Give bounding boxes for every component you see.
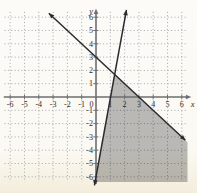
y-axis-arrow-icon	[94, 9, 99, 14]
x-tick-label: 3	[137, 100, 141, 109]
x-tick-label: -6	[7, 100, 14, 109]
axis-arrows	[94, 9, 192, 100]
x-axis-label: x	[190, 99, 195, 109]
y-tick-label: -3	[86, 133, 93, 142]
x-tick-label: 2	[123, 100, 127, 109]
y-tick-label: -2	[86, 119, 93, 128]
y-tick-label: -4	[86, 146, 93, 155]
x-tick-label: -1	[78, 100, 85, 109]
y-tick-label: 4	[89, 40, 93, 49]
inequality-graph: -6-5-4-3-2-10123456654321-1-2-3-4-5-6xy	[0, 0, 197, 193]
y-tick-label: -1	[86, 106, 93, 115]
x-tick-label: 6	[180, 100, 184, 109]
y-tick-label: 5	[89, 26, 93, 35]
shaded-region	[95, 74, 187, 182]
graph-svg: -6-5-4-3-2-10123456654321-1-2-3-4-5-6xy	[0, 0, 197, 193]
y-tick-label: 1	[89, 79, 93, 88]
boundary-line-2-arrow-icon	[123, 10, 128, 16]
x-tick-label: -2	[64, 100, 71, 109]
x-tick-label: -5	[21, 100, 28, 109]
x-tick-label: -4	[35, 100, 42, 109]
y-tick-label: 2	[89, 66, 93, 75]
boundary-line-2-arrow-icon	[93, 180, 98, 186]
y-tick-label: -5	[86, 159, 93, 168]
x-tick-label: -3	[50, 100, 57, 109]
y-tick-label: -6	[86, 173, 93, 182]
y-axis-label: y	[88, 6, 93, 16]
x-tick-label: 5	[166, 100, 170, 109]
x-tick-label: 4	[151, 100, 155, 109]
